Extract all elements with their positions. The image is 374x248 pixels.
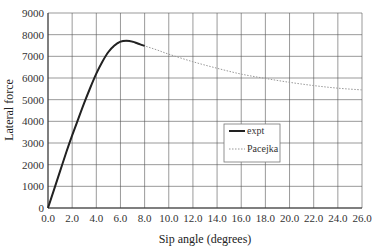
y-tick-label: 4000 (22, 115, 45, 127)
x-tick-label: 26.0 (352, 212, 372, 224)
x-tick-label: 0.0 (41, 212, 55, 224)
x-tick-label: 4.0 (89, 212, 103, 224)
lateral-force-chart: 0100020003000400050006000700080009000 0.… (0, 0, 374, 248)
y-tick-label: 2000 (22, 159, 45, 171)
x-axis-ticks: 0.02.04.06.08.010.012.014.016.018.020.02… (41, 212, 372, 224)
chart-series (48, 41, 362, 208)
chart-grid (48, 13, 362, 208)
x-tick-label: 12.0 (183, 212, 203, 224)
y-tick-label: 5000 (22, 94, 45, 106)
x-tick-label: 2.0 (65, 212, 79, 224)
y-axis-title: Lateral force (2, 79, 16, 141)
x-tick-label: 6.0 (114, 212, 128, 224)
y-axis-ticks: 0100020003000400050006000700080009000 (22, 7, 45, 214)
chart-legend: expt Pacejka (224, 124, 280, 162)
x-tick-label: 16.0 (232, 212, 252, 224)
x-tick-label: 8.0 (138, 212, 152, 224)
x-tick-label: 24.0 (328, 212, 348, 224)
x-axis-title: Sip angle (degrees) (159, 232, 252, 246)
x-tick-label: 18.0 (256, 212, 276, 224)
x-tick-label: 10.0 (159, 212, 179, 224)
y-tick-label: 8000 (22, 29, 45, 41)
x-tick-label: 14.0 (207, 212, 227, 224)
y-tick-label: 1000 (22, 180, 45, 192)
y-tick-label: 7000 (22, 50, 45, 62)
x-tick-label: 22.0 (304, 212, 324, 224)
legend-expt-label: expt (247, 125, 264, 136)
series-pacejka-line (48, 41, 362, 208)
y-tick-label: 3000 (22, 137, 45, 149)
legend-pacejka-label: Pacejka (247, 143, 279, 154)
y-tick-label: 6000 (22, 72, 45, 84)
y-tick-label: 9000 (22, 7, 45, 19)
x-tick-label: 20.0 (280, 212, 300, 224)
